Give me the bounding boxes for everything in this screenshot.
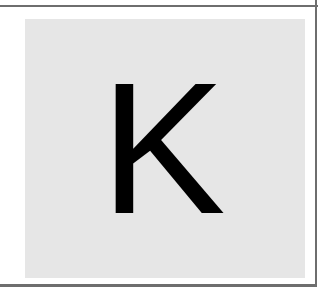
bottom-border-line	[0, 284, 317, 287]
top-border-line	[0, 5, 318, 7]
letter-glyph-container: K	[25, 19, 305, 278]
letter-tile: K	[25, 19, 305, 278]
letter-glyph: K	[100, 54, 225, 242]
right-border-line	[315, 0, 317, 287]
